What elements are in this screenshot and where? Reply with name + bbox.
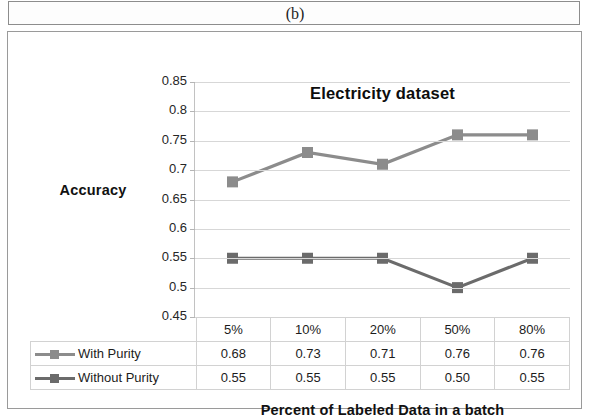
category-header-cell: 80% xyxy=(495,318,570,342)
y-axis-tick xyxy=(190,258,195,259)
figure-caption-label: (b) xyxy=(9,2,581,26)
gridline xyxy=(195,170,570,171)
y-axis-tick-label: 0.55 xyxy=(131,249,187,264)
gridline xyxy=(195,82,570,83)
legend-series-label: With Purity xyxy=(78,347,141,362)
chart-data-table: 5%10%20%50%80%With Purity0.680.730.710.7… xyxy=(30,317,570,390)
data-value-cell: 0.55 xyxy=(271,366,346,390)
gridline xyxy=(195,111,570,112)
y-axis-tick-label: 0.6 xyxy=(131,220,187,235)
legend-entry-cell: Without Purity xyxy=(31,366,197,390)
y-axis-tick-label: 0.65 xyxy=(131,191,187,206)
gridline xyxy=(195,200,570,201)
y-axis-tick-label: 0.85 xyxy=(131,73,187,88)
data-value-cell: 0.55 xyxy=(196,366,271,390)
legend-marker-icon xyxy=(35,373,75,384)
data-value-cell: 0.76 xyxy=(495,342,570,366)
y-axis-tick-label: 0.5 xyxy=(131,279,187,294)
category-header-cell: 50% xyxy=(420,318,495,342)
y-axis-tick-label: 0.75 xyxy=(131,132,187,147)
y-axis-tick-label: 0.7 xyxy=(131,161,187,176)
data-point-marker xyxy=(452,129,463,140)
y-axis-tick xyxy=(190,229,195,230)
y-axis-tick xyxy=(190,141,195,142)
chart-data-table-body: 5%10%20%50%80%With Purity0.680.730.710.7… xyxy=(31,318,570,390)
series-line xyxy=(233,135,533,182)
x-axis-title: Percent of Labeled Data in a batch xyxy=(195,402,570,418)
gridline xyxy=(195,258,570,259)
data-value-cell: 0.73 xyxy=(271,342,346,366)
legend-spacer-cell xyxy=(31,318,197,342)
table-row: 5%10%20%50%80% xyxy=(31,318,570,342)
data-point-marker xyxy=(302,147,313,158)
legend-marker-icon xyxy=(35,349,75,360)
legend-square-marker-icon xyxy=(50,374,59,383)
data-point-marker xyxy=(527,129,538,140)
legend-entry-cell: With Purity xyxy=(31,342,197,366)
y-axis-tick xyxy=(190,200,195,201)
legend-series-label: Without Purity xyxy=(78,371,159,386)
data-value-cell: 0.55 xyxy=(345,366,420,390)
gridline xyxy=(195,229,570,230)
y-axis-tick-label: 0.8 xyxy=(131,102,187,117)
legend-square-marker-icon xyxy=(50,350,59,359)
y-axis-tick xyxy=(190,111,195,112)
y-axis-tick xyxy=(190,170,195,171)
y-axis-tick xyxy=(190,288,195,289)
data-value-cell: 0.68 xyxy=(196,342,271,366)
data-value-cell: 0.76 xyxy=(420,342,495,366)
table-row: Without Purity0.550.550.550.500.55 xyxy=(31,366,570,390)
gridline xyxy=(195,141,570,142)
data-point-marker xyxy=(227,176,238,187)
data-value-cell: 0.50 xyxy=(420,366,495,390)
y-axis-tick-labels: 0.850.80.750.70.650.60.550.50.45 xyxy=(131,82,187,317)
figure-caption-strip: (b) xyxy=(8,1,580,25)
plot-area xyxy=(195,82,570,317)
table-row: With Purity0.680.730.710.760.76 xyxy=(31,342,570,366)
data-point-marker xyxy=(377,159,388,170)
chart-container: Accuracy 0.850.80.750.70.650.60.550.50.4… xyxy=(7,31,582,409)
category-header-cell: 10% xyxy=(271,318,346,342)
gridline xyxy=(195,288,570,289)
category-header-cell: 20% xyxy=(345,318,420,342)
category-header-cell: 5% xyxy=(196,318,271,342)
y-axis-tick xyxy=(190,82,195,83)
data-value-cell: 0.55 xyxy=(495,366,570,390)
data-value-cell: 0.71 xyxy=(345,342,420,366)
